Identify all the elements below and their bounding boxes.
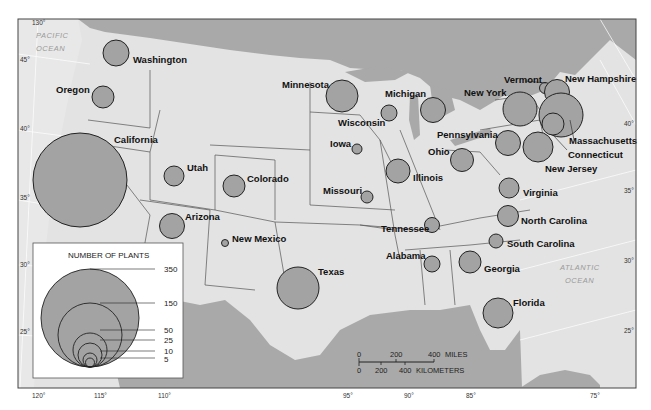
- bubble-alabama[interactable]: [424, 256, 440, 272]
- svg-text:0: 0: [357, 366, 361, 375]
- svg-text:400: 400: [428, 350, 441, 359]
- svg-text:25°: 25°: [624, 327, 634, 334]
- label-north-carolina: North Carolina: [521, 215, 588, 226]
- bubble-texas[interactable]: [277, 267, 319, 309]
- legend-title: NUMBER OF PLANTS: [68, 251, 149, 260]
- bubble-new-york[interactable]: [503, 92, 537, 126]
- svg-text:OCEAN: OCEAN: [36, 44, 65, 53]
- bubble-iowa[interactable]: [352, 144, 362, 154]
- svg-text:30°: 30°: [624, 257, 634, 264]
- label-illinois: Illinois: [413, 172, 443, 183]
- bubble-new-mexico[interactable]: [222, 240, 229, 247]
- label-vermont: Vermont: [504, 74, 543, 85]
- bubble-north-carolina[interactable]: [498, 206, 519, 227]
- svg-text:45°: 45°: [20, 56, 30, 63]
- svg-text:400: 400: [399, 366, 412, 375]
- svg-text:110°: 110°: [158, 392, 171, 399]
- bubble-illinois[interactable]: [386, 159, 410, 183]
- label-connecticut: Connecticut: [568, 149, 624, 160]
- label-arizona: Arizona: [185, 211, 221, 222]
- svg-text:90°: 90°: [404, 392, 414, 399]
- label-california: California: [114, 134, 159, 145]
- svg-text:150: 150: [164, 299, 178, 308]
- bubble-missouri[interactable]: [361, 191, 373, 203]
- label-florida: Florida: [513, 297, 545, 308]
- svg-text:KILOMETERS: KILOMETERS: [416, 366, 464, 375]
- bubble-virginia[interactable]: [499, 178, 519, 198]
- svg-text:130°: 130°: [32, 19, 46, 26]
- svg-text:5: 5: [164, 355, 169, 364]
- us-plants-map: PACIFIC OCEAN ATLANTIC OCEAN: [0, 0, 651, 410]
- label-washington: Washington: [133, 54, 187, 65]
- bubble-new-jersey[interactable]: [523, 132, 553, 162]
- svg-text:40°: 40°: [20, 125, 30, 132]
- label-tennessee: Tennessee: [381, 223, 429, 234]
- label-missouri: Missouri: [323, 185, 362, 196]
- label-minnesota: Minnesota: [282, 79, 330, 90]
- bubble-ohio[interactable]: [451, 149, 474, 172]
- label-alabama: Alabama: [386, 250, 426, 261]
- bubble-florida[interactable]: [483, 298, 513, 328]
- label-colorado: Colorado: [247, 173, 289, 184]
- label-virginia: Virginia: [523, 187, 558, 198]
- bubble-connecticut[interactable]: [542, 113, 564, 135]
- label-pennsylvania: Pennsylvania: [437, 129, 498, 140]
- label-new-jersey: New Jersey: [545, 163, 598, 174]
- svg-text:40°: 40°: [624, 120, 634, 127]
- svg-text:35°: 35°: [20, 194, 30, 201]
- label-utah: Utah: [187, 162, 208, 173]
- svg-text:120°: 120°: [32, 392, 46, 399]
- svg-text:200: 200: [390, 350, 403, 359]
- label-new-york: New York: [464, 87, 507, 98]
- bubble-minnesota[interactable]: [326, 80, 358, 112]
- label-ohio: Ohio: [428, 146, 450, 157]
- label-new-mexico: New Mexico: [232, 233, 287, 244]
- bubble-washington[interactable]: [103, 40, 129, 66]
- bubble-utah[interactable]: [164, 166, 184, 186]
- svg-text:95°: 95°: [343, 392, 353, 399]
- svg-text:50: 50: [164, 326, 173, 335]
- label-oregon: Oregon: [56, 84, 90, 95]
- svg-text:115°: 115°: [94, 392, 107, 399]
- svg-text:25°: 25°: [20, 328, 30, 335]
- legend: NUMBER OF PLANTS 350 150 50 25 10 5: [33, 243, 183, 378]
- svg-text:200: 200: [375, 366, 388, 375]
- svg-text:MILES: MILES: [445, 350, 468, 359]
- bubble-michigan[interactable]: [421, 98, 446, 123]
- label-georgia: Georgia: [484, 263, 521, 274]
- label-michigan: Michigan: [385, 88, 426, 99]
- svg-text:ATLANTIC: ATLANTIC: [559, 263, 600, 272]
- bubble-arizona[interactable]: [160, 214, 185, 239]
- bubble-california[interactable]: [33, 133, 127, 227]
- bubble-oregon[interactable]: [92, 86, 114, 108]
- svg-text:PACIFIC: PACIFIC: [36, 31, 69, 40]
- svg-text:0: 0: [357, 350, 361, 359]
- label-new-hampshire: New Hampshire: [565, 73, 636, 84]
- bubble-colorado[interactable]: [223, 175, 245, 197]
- bubble-pennsylvania[interactable]: [496, 131, 521, 156]
- label-texas: Texas: [318, 266, 344, 277]
- bubble-south-carolina[interactable]: [489, 234, 503, 248]
- svg-text:35°: 35°: [624, 187, 634, 194]
- svg-text:25: 25: [164, 336, 173, 345]
- svg-text:85°: 85°: [466, 392, 476, 399]
- label-south-carolina: South Carolina: [507, 238, 575, 249]
- svg-text:75°: 75°: [590, 392, 600, 399]
- svg-text:350: 350: [164, 265, 178, 274]
- label-massachusetts: Massachusetts: [569, 135, 637, 146]
- label-iowa: Iowa: [330, 138, 352, 149]
- bubble-georgia[interactable]: [459, 251, 481, 273]
- label-wisconsin: Wisconsin: [338, 117, 386, 128]
- svg-text:30°: 30°: [20, 261, 30, 268]
- svg-text:OCEAN: OCEAN: [565, 276, 594, 285]
